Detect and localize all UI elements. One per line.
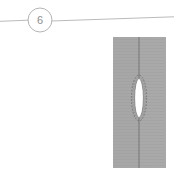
section-block-interior — [113, 37, 166, 168]
detail-callout-label: 6 — [37, 14, 43, 26]
detail-callout-group[interactable]: 6 — [28, 8, 52, 32]
leader-line-group — [0, 17, 174, 22]
technical-drawing: 6 — [0, 0, 174, 175]
section-block-group — [113, 37, 166, 168]
leader-line-right — [52, 17, 174, 21]
defect-void-core[interactable] — [135, 78, 144, 117]
drawing-canvas: 6 — [0, 0, 174, 175]
leader-line-left — [0, 20, 28, 21]
